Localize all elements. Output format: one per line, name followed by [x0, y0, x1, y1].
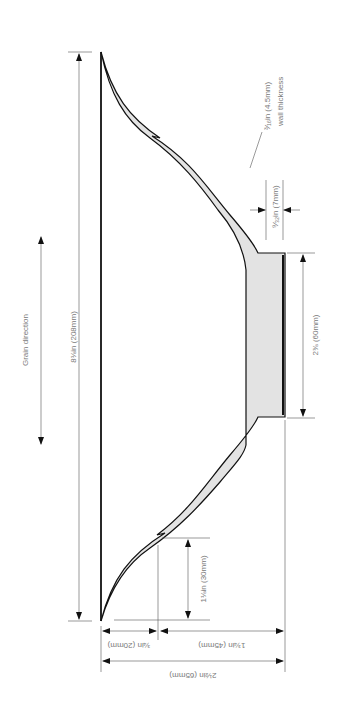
total-height-label: 2½in (65mm): [169, 671, 216, 680]
grain-direction-arrow: Grain direction: [21, 237, 41, 444]
foot-depth-label: 1¾in (45mm): [198, 641, 245, 650]
bowl-diagram: 8⅛in (208mm) Grain direction ³⁄₁₆in (4.5…: [0, 0, 341, 704]
foot-diameter-label: 2⅜ (60mm): [311, 314, 320, 355]
wall-thickness-value: ³⁄₁₆in (4.5mm): [263, 82, 272, 130]
notch-height-dimension: 1⅛in (30mm): [114, 538, 210, 640]
bowl-wall-profile: [101, 52, 285, 621]
wall-thickness-callout: ³⁄₁₆in (4.5mm) wall thickness: [250, 77, 285, 168]
notch-height-label: 1⅛in (30mm): [199, 555, 208, 602]
base-thickness-label: ⁹⁄₃₂in (7mm): [271, 185, 280, 228]
base-thickness-dimension: ⁹⁄₃₂in (7mm): [250, 180, 300, 240]
height-dimensions: ¾in (20mm) 1¾in (45mm) 2½in (65mm): [101, 420, 285, 680]
rim-to-foot-left-label: ¾in (20mm): [107, 641, 150, 650]
wall-thickness-caption: wall thickness: [276, 77, 285, 127]
foot-diameter-dimension: 2⅜ (60mm): [287, 253, 320, 418]
overall-diameter-label: 8⅛in (208mm): [69, 311, 78, 363]
overall-diameter-dimension: 8⅛in (208mm): [68, 52, 92, 621]
grain-direction-label: Grain direction: [21, 314, 30, 366]
